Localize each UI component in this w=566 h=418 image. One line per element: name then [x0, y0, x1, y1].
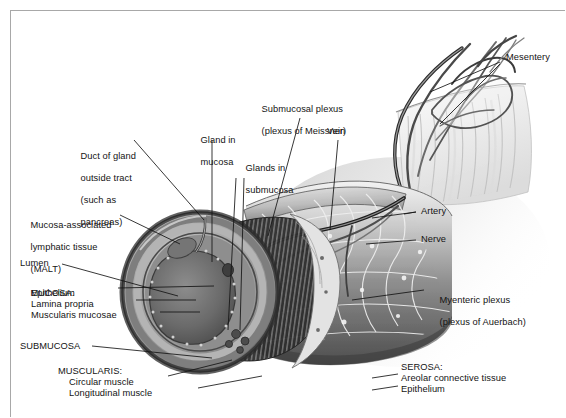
gland-in-mucosa — [223, 264, 234, 277]
label-serosa-heading: SEROSA: — [401, 362, 443, 373]
label-duct-line2: outside tract — [81, 173, 132, 183]
label-myenteric-plexus-line2: (plexus of Auerbach) — [440, 317, 526, 327]
label-mesentery: Mesentery — [506, 52, 550, 63]
label-nerve: Nerve — [421, 234, 446, 245]
label-serosa-epithelium: Epithelium — [401, 384, 445, 395]
label-duct-line1: Duct of gland — [81, 151, 136, 161]
label-submucosal-plexus: Submucosal plexus (plexus of Meissner) — [251, 93, 346, 148]
label-gland-in-mucosa-line1: Gland in — [201, 135, 236, 145]
label-gland-in-mucosa-line2: mucosa — [201, 157, 234, 167]
cut-cross-section — [122, 212, 278, 372]
label-gland-in-mucosa: Gland in mucosa — [190, 124, 236, 179]
label-muscularis-circular: Circular muscle — [58, 377, 134, 388]
label-glands-in-submucosa-line1: Glands in — [246, 163, 286, 173]
label-muscularis-heading: MUSCULARIS: — [58, 366, 122, 377]
label-mucosa-lamina-propria: Lamina propria — [20, 299, 94, 310]
label-malt: Mucosa-associated lymphatic tissue (MALT… — [20, 209, 112, 286]
label-glands-in-submucosa-line2: submucosa — [246, 185, 294, 195]
label-mucosa-muscularis-mucosae: Muscularis mucosae — [20, 310, 117, 321]
label-myenteric-plexus-line1: Myenteric plexus — [440, 295, 511, 305]
label-submucosal-plexus-line1: Submucosal plexus — [262, 104, 343, 114]
label-submucosa: SUBMUCOSA — [20, 341, 80, 352]
label-vein: Vein — [327, 126, 345, 137]
label-muscularis-longitudinal: Longitudinal muscle — [58, 388, 152, 399]
anatomy-figure: Mesentery Submucosal plexus (plexus of M… — [0, 0, 566, 418]
label-myenteric-plexus: Myenteric plexus (plexus of Auerbach) — [429, 284, 526, 339]
label-duct-line3: (such as — [81, 195, 117, 205]
label-artery: Artery — [421, 206, 446, 217]
label-serosa-areolar: Areolar connective tissue — [401, 373, 506, 384]
label-glands-in-submucosa: Glands in submucosa — [235, 152, 294, 207]
label-mucosa-epithelium: Epithelium — [20, 288, 75, 299]
label-malt-line1: Mucosa-associated — [31, 220, 112, 230]
label-malt-line2: lymphatic tissue — [31, 242, 98, 252]
label-lumen: Lumen — [20, 258, 49, 269]
